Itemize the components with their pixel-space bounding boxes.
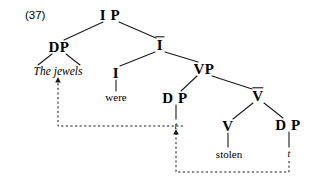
- node-dp-subject: DP: [48, 40, 69, 55]
- terminal-stolen: stolen: [216, 149, 242, 160]
- syntax-tree-figure: (37) I P D: [0, 0, 318, 182]
- branch-vp-vbar: [212, 76, 252, 89]
- branch-vbar-v: [233, 103, 253, 119]
- node-vp-label: VP: [193, 61, 214, 77]
- branch-ibar-i: [120, 52, 155, 66]
- terminal-were: were: [105, 92, 126, 103]
- node-i-bar-label: I: [157, 38, 163, 54]
- branch-ip-dp1: [64, 22, 103, 40]
- branch-ip-ibar: [119, 22, 156, 38]
- node-i-head: I: [113, 66, 119, 81]
- node-i-bar: I: [156, 36, 165, 53]
- tree-lines-layer: [0, 0, 318, 182]
- node-v-head-label: V: [222, 118, 233, 134]
- branch-dp1-left: [38, 54, 52, 65]
- branch-dp1-right: [66, 54, 80, 65]
- trace-object-position: t: [288, 149, 291, 159]
- node-dp-base: D P: [275, 118, 301, 133]
- node-v-bar-label: V: [252, 89, 263, 105]
- node-v-bar: V: [252, 87, 263, 104]
- node-dp-base-label: D P: [275, 117, 301, 133]
- node-ip-label: I P: [100, 7, 121, 23]
- node-ip: I P: [100, 8, 121, 23]
- terminal-the-jewels-label: The jewels: [34, 65, 83, 77]
- terminal-were-label: were: [105, 91, 126, 103]
- node-v-head: V: [222, 119, 233, 134]
- node-i-head-label: I: [113, 65, 119, 81]
- node-dp-object-trace-label: D P: [162, 90, 188, 106]
- node-dp-subject-label: DP: [48, 39, 69, 55]
- a-movement-arrowhead: [55, 77, 61, 83]
- node-dp-object-trace: D P: [162, 91, 188, 106]
- trace-subject-position-label: t: [175, 120, 178, 131]
- terminal-stolen-label: stolen: [216, 148, 242, 160]
- trace-object-position-label: t: [288, 148, 291, 159]
- trace-subject-position: t: [175, 121, 178, 131]
- terminal-the-jewels: The jewels: [34, 66, 83, 78]
- node-vp: VP: [193, 62, 214, 77]
